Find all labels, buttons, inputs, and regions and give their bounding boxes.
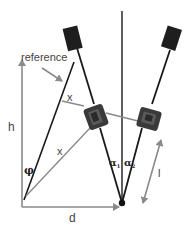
phi-angle-label: φ (24, 164, 34, 177)
left-rod-upper (77, 48, 94, 104)
x-distance-line (26, 128, 90, 196)
reference-line (24, 62, 74, 200)
geometry-diagram: reference h d x x φ α1 α2 l (0, 0, 191, 230)
right-rod-upper (152, 50, 170, 104)
l-label: l (158, 167, 160, 179)
left-paddle (63, 25, 83, 51)
left-sensor-device (83, 103, 109, 131)
d-label: d (69, 211, 76, 225)
pivot-point (119, 200, 125, 206)
alpha1-angle-label: α1 (109, 157, 120, 169)
x-lower-label: x (57, 145, 63, 157)
reference-label: reference (21, 51, 67, 63)
device-connector-line (106, 113, 142, 122)
reference-pointer-arrow (42, 68, 62, 81)
right-sensor-device (136, 106, 162, 131)
x-upper-label: x (67, 91, 73, 103)
x-perpendicular-line (62, 101, 84, 106)
right-paddle (161, 25, 182, 51)
h-label: h (8, 120, 15, 134)
